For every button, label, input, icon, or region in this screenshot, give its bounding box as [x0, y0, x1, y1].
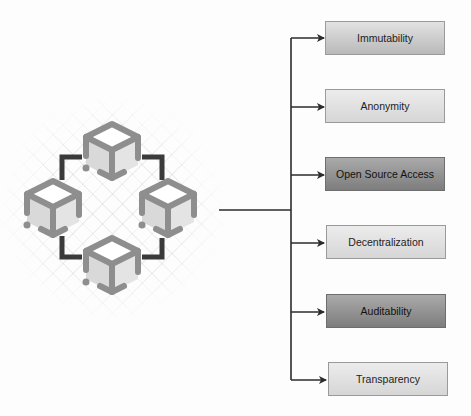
feature-box-auditability: Auditability — [326, 294, 446, 328]
feature-label: Decentralization — [348, 236, 423, 248]
feature-box-transparency: Transparency — [328, 362, 448, 396]
feature-label: Immutability — [357, 32, 413, 44]
feature-box-decentralization: Decentralization — [326, 225, 446, 259]
feature-label: Transparency — [356, 373, 420, 385]
feature-label: Anonymity — [360, 100, 409, 112]
connector-tree — [0, 0, 471, 416]
feature-label: Auditability — [361, 305, 412, 317]
feature-box-immutability: Immutability — [325, 21, 445, 55]
feature-box-open-source-access: Open Source Access — [325, 157, 445, 191]
feature-label: Open Source Access — [336, 168, 434, 180]
feature-box-anonymity: Anonymity — [325, 89, 445, 123]
